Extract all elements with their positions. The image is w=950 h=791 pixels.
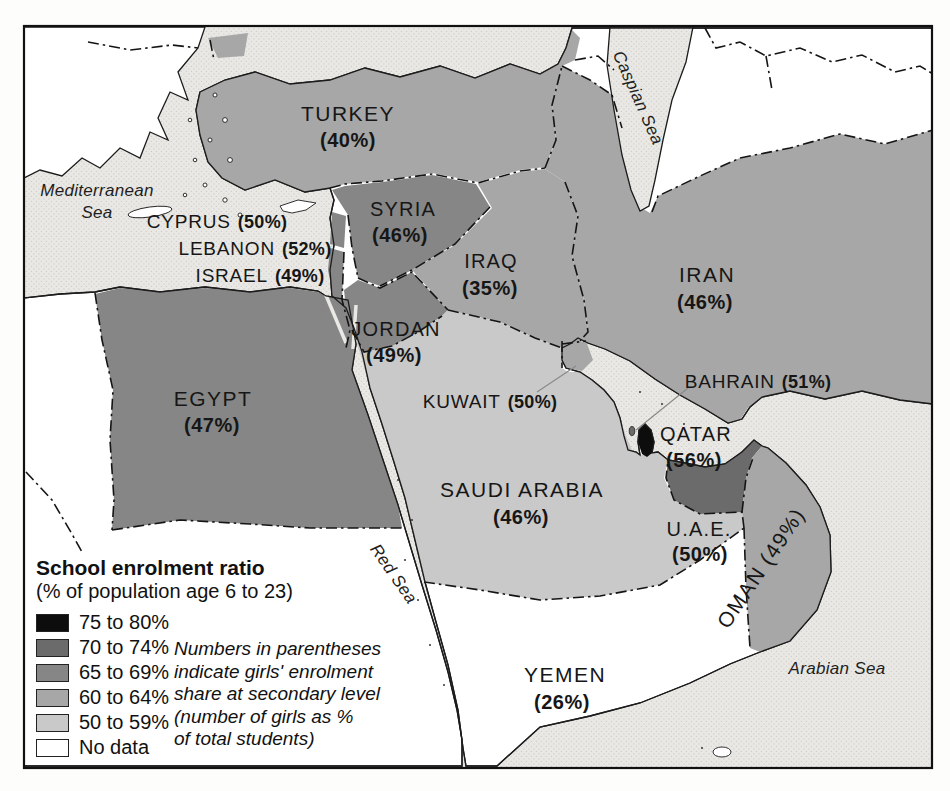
label-uae: U.A.E. <box>667 518 732 540</box>
label-saudi-arabia-pct: (46%) <box>493 506 549 528</box>
label-yemen: YEMEN <box>524 663 606 686</box>
label-jordan-pct: (49%) <box>366 344 422 366</box>
label-iran-pct: (46%) <box>677 291 733 313</box>
legend-note-line: indicate girls' enrolment <box>174 661 381 684</box>
arabian-sea-label: Arabian Sea <box>788 659 886 678</box>
label-cyprus: CYPRUS(50%) <box>147 211 288 232</box>
label-kuwait: KUWAIT(50%) <box>423 391 558 412</box>
label-jordan: JORDAN <box>351 318 440 340</box>
label-lebanon: LEBANON(52%) <box>179 238 332 259</box>
label-qatar-pct: (56%) <box>666 449 722 471</box>
legend-note-line: Numbers in parentheses <box>174 638 381 661</box>
legend-class-label: No data <box>79 736 149 759</box>
label-yemen-pct: (26%) <box>534 691 590 713</box>
label-syria-pct: (46%) <box>372 224 428 246</box>
label-egypt-pct: (47%) <box>184 414 240 436</box>
legend-note-line: share at secondary level <box>174 683 381 706</box>
country-bahrain <box>629 427 635 436</box>
legend-swatch <box>36 639 69 657</box>
legend-class-label: 75 to 80% <box>79 611 169 634</box>
label-saudi-arabia: SAUDI ARABIA <box>440 478 604 501</box>
legend-class-label: 50 to 59% <box>79 711 169 734</box>
label-turkey-pct: (40%) <box>320 129 376 151</box>
label-iran: IRAN <box>679 263 735 286</box>
legend-swatch <box>36 714 69 732</box>
label-bahrain: BAHRAIN(51%) <box>685 371 832 392</box>
legend-row: 75 to 80% <box>36 613 293 632</box>
label-egypt: EGYPT <box>174 387 253 410</box>
label-iraq-pct: (35%) <box>462 277 518 299</box>
legend-swatch <box>36 664 69 682</box>
legend-swatch <box>36 739 69 757</box>
label-israel: ISRAEL(49%) <box>196 265 325 286</box>
legend-class-label: 60 to 64% <box>79 686 169 709</box>
legend-note-line: (number of girls as % <box>174 706 381 729</box>
legend-subtitle: (% of population age 6 to 23) <box>36 579 293 603</box>
label-turkey: TURKEY <box>301 102 395 125</box>
map-page: Mediterranean Sea Red Sea Caspian Sea Ar… <box>0 0 950 791</box>
legend-note-line: of total students) <box>174 728 381 751</box>
legend-class-label: 70 to 74% <box>79 636 169 659</box>
label-uae-pct: (50%) <box>672 543 728 565</box>
legend-swatch <box>36 689 69 707</box>
legend-title: School enrolment ratio <box>36 556 293 579</box>
legend-note: Numbers in parentheses indicate girls' e… <box>174 638 381 751</box>
legend-class-label: 65 to 69% <box>79 661 169 684</box>
label-qatar: QATAR <box>660 423 732 445</box>
mediterranean-sea-label2: Sea <box>81 203 112 222</box>
mediterranean-sea-label: Mediterranean <box>40 181 154 200</box>
label-iraq: IRAQ <box>464 250 518 272</box>
legend-swatch <box>36 614 69 632</box>
label-syria: SYRIA <box>370 198 436 220</box>
